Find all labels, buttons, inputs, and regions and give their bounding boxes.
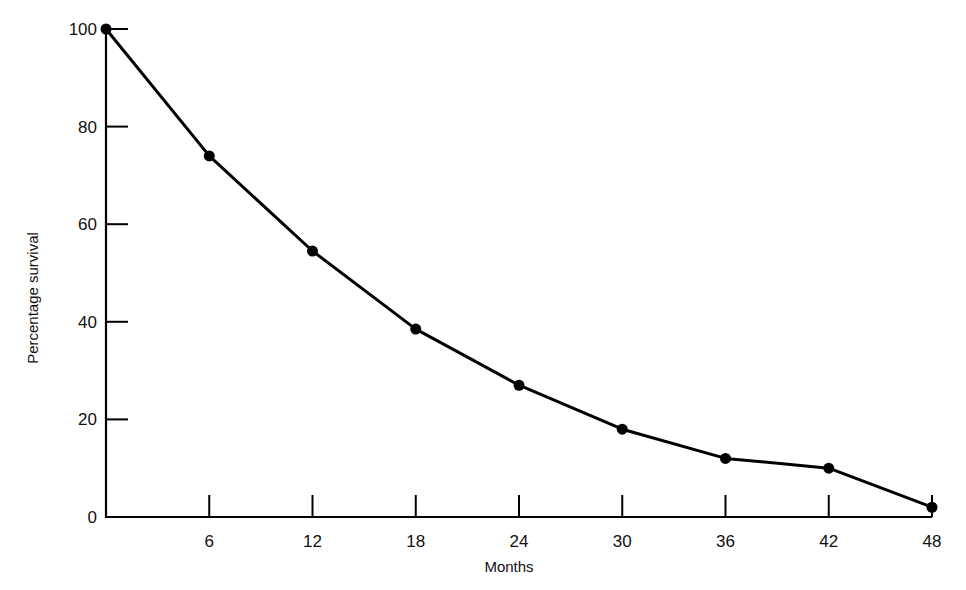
x-tick-label: 30 bbox=[613, 532, 632, 551]
y-tick-label: 20 bbox=[78, 410, 97, 429]
x-tick-label: 36 bbox=[716, 532, 735, 551]
x-tick-label: 12 bbox=[303, 532, 322, 551]
x-tick-label: 48 bbox=[923, 532, 942, 551]
data-point-marker bbox=[720, 453, 731, 464]
y-tick-label: 100 bbox=[69, 20, 97, 39]
y-tick-label: 0 bbox=[88, 508, 97, 527]
survival-line-chart: 020406080100612182430364248MonthsPercent… bbox=[0, 0, 966, 590]
y-axis-title: Percentage survival bbox=[24, 232, 41, 364]
data-point-marker bbox=[204, 150, 215, 161]
data-point-marker bbox=[927, 502, 938, 513]
x-tick-label: 24 bbox=[510, 532, 529, 551]
data-point-marker bbox=[307, 246, 318, 257]
survival-line bbox=[106, 29, 932, 507]
x-tick-label: 6 bbox=[205, 532, 214, 551]
y-tick-label: 60 bbox=[78, 215, 97, 234]
data-point-marker bbox=[410, 324, 421, 335]
x-tick-label: 18 bbox=[406, 532, 425, 551]
data-point-marker bbox=[823, 463, 834, 474]
data-point-marker bbox=[514, 380, 525, 391]
y-tick-label: 40 bbox=[78, 313, 97, 332]
x-tick-label: 42 bbox=[819, 532, 838, 551]
y-tick-label: 80 bbox=[78, 118, 97, 137]
data-point-marker bbox=[101, 24, 112, 35]
x-axis-title: Months bbox=[484, 558, 533, 575]
data-point-marker bbox=[617, 424, 628, 435]
